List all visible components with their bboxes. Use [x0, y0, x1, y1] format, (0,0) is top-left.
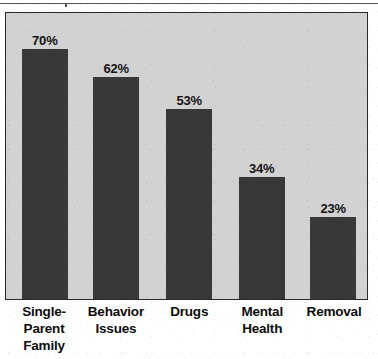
- plot-area: 70%62%53%34%23%: [6, 13, 367, 299]
- bar: [22, 49, 68, 299]
- page-rule-tick: [65, 3, 67, 7]
- category-label: Removal: [292, 303, 376, 320]
- bar-value-label: 23%: [310, 201, 356, 216]
- category-axis-labels: Single- Parent FamilyBehavior IssuesDrug…: [5, 303, 368, 359]
- bar: [93, 77, 139, 299]
- bar-value-label: 53%: [166, 93, 212, 108]
- bar: [310, 217, 356, 299]
- bar: [239, 177, 285, 299]
- bar-value-label: 34%: [239, 161, 285, 176]
- page-top-rule: [0, 3, 378, 4]
- category-label: Behavior Issues: [74, 303, 158, 337]
- bar-value-label: 62%: [93, 61, 139, 76]
- bar-chart-frame: 70%62%53%34%23%: [5, 12, 368, 300]
- category-label: Drugs: [147, 303, 231, 320]
- bar: [166, 109, 212, 299]
- bar-value-label: 70%: [22, 33, 68, 48]
